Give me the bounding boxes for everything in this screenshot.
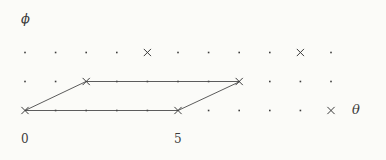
lattice-dot xyxy=(300,110,302,112)
lattice-dot xyxy=(269,110,271,112)
lattice-dot xyxy=(55,52,57,54)
lattice-dot xyxy=(238,52,240,54)
lattice-dot xyxy=(85,52,87,54)
unit-cell-parallelogram xyxy=(25,82,240,111)
lattice-dot xyxy=(269,52,271,54)
marked-point-cross xyxy=(327,107,334,114)
lattice-dot xyxy=(24,52,26,54)
lattice-dot xyxy=(330,52,332,54)
marked-point-cross xyxy=(144,49,151,56)
lattice-dot xyxy=(208,52,210,54)
lattice-dot xyxy=(116,52,118,54)
lattice-dot xyxy=(208,110,210,112)
lattice-dot xyxy=(330,81,332,83)
x-tick-label-0: 0 xyxy=(21,133,29,145)
parallelogram-outline xyxy=(25,82,240,111)
lattice-dot xyxy=(24,81,26,83)
lattice-dot xyxy=(55,81,57,83)
x-axis-label-theta: θ xyxy=(352,103,360,116)
marked-point-cross xyxy=(297,49,304,56)
lattice-dot xyxy=(269,81,271,83)
lattice-dot xyxy=(177,52,179,54)
lattice-plot-canvas xyxy=(0,0,386,160)
lattice-dot xyxy=(238,110,240,112)
lattice-dot xyxy=(300,81,302,83)
x-tick-label-5: 5 xyxy=(174,133,182,145)
plot-figure: ϕ θ 0 5 xyxy=(0,0,386,160)
y-axis-label-phi: ϕ xyxy=(21,12,30,25)
